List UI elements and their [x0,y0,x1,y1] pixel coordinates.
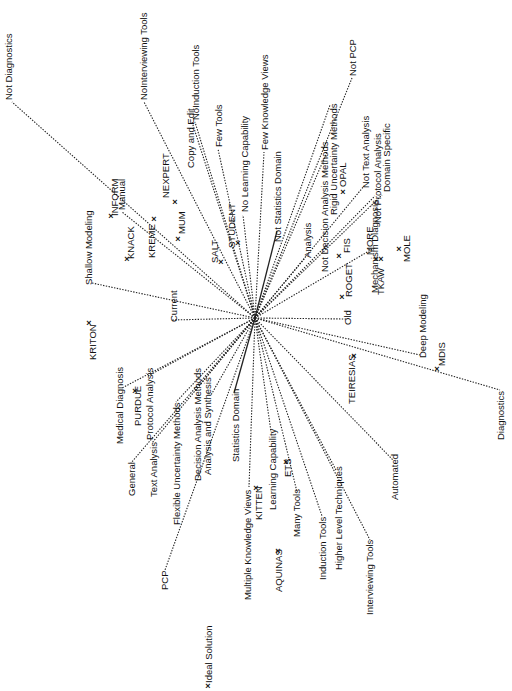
ray-deep-modeling [255,318,420,355]
construct-label-medical-diagnosis: Medical Diagnosis [114,367,125,444]
construct-label-not-diagnostics: Not Diagnostics [3,33,14,100]
construct-label-few-tools: Few Tools [213,104,224,147]
element-label: NEXPERT [160,153,171,198]
ray-not-decision-analysis-methods [255,152,327,318]
element-nexpert: ×NEXPERT [160,153,178,207]
element-label: AQUINAS [273,549,284,592]
ray-analysis-and-synthesis [211,318,255,395]
element-label: INFORM [109,178,120,216]
ray-current [172,318,255,320]
construct-label-multiple-knowledge-views: Multiple Knowledge Views [242,490,253,600]
construct-label-diagnostics: Diagnostics [495,391,506,440]
element-mole: ×MOLE [396,235,412,262]
construct-label-induction-tools: Induction Tools [317,517,328,580]
element-label: TKAW [375,268,386,295]
element-label: OPAL [337,162,348,187]
element-roget: ×ROGET [339,263,354,302]
ray-old [255,318,346,319]
element-label: KREME [146,224,157,258]
x-marker-icon: × [340,187,345,197]
construct-labels: Not DiagnosticsShallow ModelingCurrentMa… [3,12,506,615]
element-label: PURDUE [132,386,143,426]
construct-label-analysis-and-synthesis: Analysis and Synthesis [202,377,213,475]
construct-label-higher-level-techniques: Higher Level Techniques [333,466,344,570]
element-label: MDIS [436,342,447,366]
element-purdue: ×PURDUE [132,386,143,426]
element-ideal-solution: ×Ideal Solution [203,625,214,691]
element-mdis: ×MDIS [434,342,447,374]
element-inform: ×INFORM [108,178,120,221]
ray-few-knowledge-views [255,152,264,318]
element-label: KRITON [87,324,98,360]
x-marker-icon: × [378,254,383,264]
construct-label-interviewing-tools: Interviewing Tools [364,539,375,615]
construct-label-old: Old [342,310,353,325]
construct-label-current: Current [168,290,179,322]
element-kitten: ×KITTEN [253,483,264,520]
construct-label-rigid-uncertainty-methods: Rigid Uncertainty Methods [328,103,339,215]
element-label: TEIRESIAS [346,354,357,404]
element-kriton: ×KRITON [86,318,98,360]
element-markers: ×INFORM×KNACK×KREME×NEXPERT×MUM×SALT×STU… [86,153,447,691]
element-label: Ideal Solution [203,625,214,683]
element-label: ETS [282,459,293,477]
ray-no-learning-capability [243,215,255,318]
element-fis: ×FIS [336,238,352,261]
construct-label-protocol-analysis: Protocol Analysis [144,367,155,440]
construct-label-no-learning-capability: No Learning Capability [239,116,250,212]
ray-induction-tools [255,318,322,516]
construct-label-automated: Automated [389,454,400,500]
ray-mechanism-diagnosis [255,248,374,318]
construct-label-flexible-uncertainty-methods: Flexible Uncertainty Methods [171,402,182,525]
construct-label-nointerviewing-tools: NoInterviewing Tools [138,12,149,100]
construct-label-domain-specific: Domain Specific [381,123,392,192]
element-mum: ×MUM [175,211,187,244]
ray-multiple-knowledge-views [249,318,255,487]
repertory-grid-biplot: Not DiagnosticsShallow ModelingCurrentMa… [0,0,512,691]
construct-label-shallow-modeling: Shallow Modeling [83,211,94,285]
construct-label-pcp: PCP [159,570,170,590]
construct-label-few-knowledge-views: Few Knowledge Views [259,54,270,150]
construct-label-statistics-domain: Statistics Domain [230,389,241,462]
construct-label-not-statistics-domain: Not Statistics Domain [272,151,283,242]
x-marker-icon: × [172,197,177,207]
construct-label-analysis: Analysis [302,222,313,258]
construct-label-not-pcp: Not PCP [347,39,358,76]
construct-label-noinduction-tools: NoInduction Tools [190,44,201,120]
element-label: MORE [364,227,375,256]
construct-label-many-tools: Many Tools [291,489,302,537]
element-teiresias: ×TEIRESIAS [346,351,357,404]
element-ets: ×ETS [282,457,293,477]
element-label: SALT [209,240,220,263]
ray-diagnostics [255,318,500,390]
element-label: FIS [341,238,352,253]
element-label: KITTEN [253,486,264,520]
element-label: MOLE [401,235,412,262]
x-marker-icon: × [175,234,180,244]
ray-protocol-analysis [148,318,255,376]
ray-learning-capability [255,318,271,432]
construct-label-decision-analysis-methods: Decision Analysis Methods [192,368,203,481]
element-kreme: ×KREME [146,214,157,258]
element-label: MUM [176,211,187,234]
biplot-svg: Not DiagnosticsShallow ModelingCurrentMa… [0,0,512,691]
construct-label-text-analysis: Text Analysis [148,442,159,497]
element-label: ROGET [343,263,354,297]
element-label: KNACK [125,226,136,259]
construct-label-not-text-analysis: Not Text Analysis [360,116,371,188]
element-label: STUDENT [226,203,237,248]
construct-label-deep-modeling: Deep Modeling [417,294,428,358]
construct-label-learning-capability: Learning Capability [267,428,278,510]
x-marker-icon: × [151,214,156,224]
construct-label-general: General [126,462,137,496]
element-aquinas: ×AQUINAS [273,546,284,592]
element-knack: ×KNACK [124,226,136,264]
